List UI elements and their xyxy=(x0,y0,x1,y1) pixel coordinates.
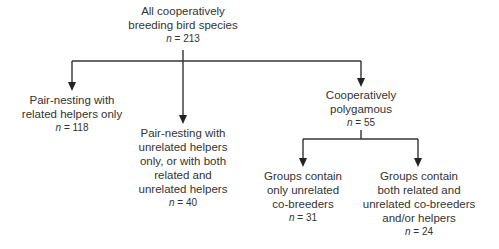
node-text: unrelated helpers xyxy=(123,182,243,196)
node-pair-unrelated: Pair-nesting with unrelated helpers only… xyxy=(123,126,243,210)
node-text: All cooperatively xyxy=(113,4,253,18)
node-text: related helpers only xyxy=(2,107,142,121)
node-text: Groups contain xyxy=(358,169,480,183)
node-count: n = 55 xyxy=(301,116,421,130)
node-text: co-breeders xyxy=(248,197,358,211)
node-polygamous: Cooperatively polygamous n = 55 xyxy=(301,88,421,130)
node-text: unrelated helpers xyxy=(123,140,243,154)
node-groups-unrelated: Groups contain only unrelated co-breeder… xyxy=(248,169,358,225)
arrowhead-icon xyxy=(299,158,307,167)
node-text: both related and xyxy=(358,183,480,197)
node-root: All cooperatively breeding bird species … xyxy=(113,4,253,46)
node-count: n = 31 xyxy=(248,211,358,225)
node-groups-both: Groups contain both related and unrelate… xyxy=(358,169,480,239)
node-count: n = 118 xyxy=(2,121,142,135)
node-text: only unrelated xyxy=(248,183,358,197)
arrowhead-icon xyxy=(179,115,187,124)
arrowhead-icon xyxy=(414,158,422,167)
arrowhead-icon xyxy=(357,78,365,87)
node-text: Groups contain xyxy=(248,169,358,183)
node-text: breeding bird species xyxy=(113,18,253,32)
node-text: related and xyxy=(123,168,243,182)
node-text: and/or helpers xyxy=(358,211,480,225)
node-count: n = 40 xyxy=(123,196,243,210)
node-pair-related: Pair-nesting with related helpers only n… xyxy=(2,93,142,135)
node-text: unrelated co-breeders xyxy=(358,197,480,211)
arrowhead-icon xyxy=(68,82,76,91)
node-count: n = 24 xyxy=(358,225,480,239)
node-count: n = 213 xyxy=(113,32,253,46)
node-text: only, or with both xyxy=(123,154,243,168)
node-text: Pair-nesting with xyxy=(123,126,243,140)
node-text: polygamous xyxy=(301,102,421,116)
node-text: Cooperatively xyxy=(301,88,421,102)
node-text: Pair-nesting with xyxy=(2,93,142,107)
